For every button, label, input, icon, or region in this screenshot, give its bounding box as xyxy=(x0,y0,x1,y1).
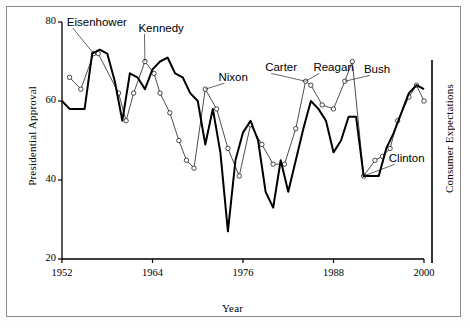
y-tick-label: 40 xyxy=(34,173,56,184)
x-tick-label: 1988 xyxy=(312,267,356,278)
annotation-clinton: Clinton xyxy=(389,152,425,164)
right-axis-title: Consumer Expectations xyxy=(443,84,455,193)
x-tick-label: 1952 xyxy=(40,267,84,278)
x-axis-title: Year xyxy=(222,302,243,314)
y-tick-label: 20 xyxy=(34,252,56,263)
x-tick-label: 1964 xyxy=(131,267,175,278)
annotation-eisenhower: Eisenhower xyxy=(67,16,127,28)
y-tick-label: 80 xyxy=(34,15,56,26)
annotation-kennedy: Kennedy xyxy=(138,22,183,34)
axes-layer xyxy=(58,22,432,263)
x-tick-label: 1976 xyxy=(221,267,265,278)
y-tick-label: 60 xyxy=(34,94,56,105)
annotation-carter: Carter xyxy=(265,61,297,73)
figure-container: Presidential Approval Consumer Expectati… xyxy=(0,0,470,328)
annotation-reagan: Reagan xyxy=(313,61,353,73)
annotation-nixon: Nixon xyxy=(218,71,247,83)
x-tick-label: 2000 xyxy=(402,267,446,278)
annotation-bush: Bush xyxy=(364,63,390,75)
